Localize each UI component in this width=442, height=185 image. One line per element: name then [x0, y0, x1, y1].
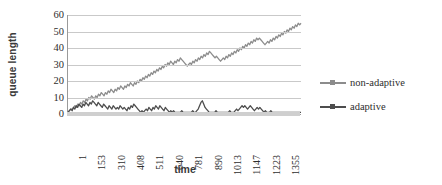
x-tick-label-text: 153: [96, 155, 107, 170]
gridline: [68, 32, 301, 33]
y-tick-label: 60: [38, 10, 64, 21]
x-axis-title: time: [130, 163, 240, 175]
gridline: [68, 48, 301, 49]
x-tick-label-text: 310: [116, 155, 127, 170]
gridline: [68, 65, 301, 66]
chart-container: queue length 0102030405060 1153310408511…: [0, 0, 442, 185]
y-tick-label: 10: [38, 92, 64, 103]
gridline: [68, 15, 301, 16]
gridline: [68, 81, 301, 82]
y-tick-label: 50: [38, 26, 64, 37]
legend: non-adaptiveadaptive: [320, 70, 440, 118]
gridline: [68, 98, 301, 99]
legend-item[interactable]: adaptive: [320, 94, 440, 118]
y-tick-label: 40: [38, 43, 64, 54]
series-line: [68, 101, 301, 113]
legend-swatch-icon: [320, 102, 346, 111]
y-axis-tick-labels: 0102030405060: [36, 0, 64, 185]
legend-label: non-adaptive: [346, 77, 405, 88]
y-tick-label: 20: [38, 76, 64, 87]
x-axis-tick-labels: 11533104085116407818901013114712231355: [67, 117, 300, 161]
legend-label: adaptive: [346, 101, 386, 112]
y-axis-title-text: queue length: [7, 32, 18, 97]
x-tick-label-text: 1147: [251, 155, 262, 175]
y-axis-title: queue length: [2, 14, 22, 114]
y-tick-label: 30: [38, 59, 64, 70]
plot-area: [67, 15, 300, 114]
x-tick-label-text: 1223: [271, 155, 282, 175]
baseline-band: [67, 112, 300, 116]
x-tick-label: 1355: [270, 117, 310, 157]
legend-item[interactable]: non-adaptive: [320, 70, 440, 94]
x-tick-label-text: 1355: [290, 155, 301, 175]
legend-swatch-icon: [320, 78, 346, 87]
